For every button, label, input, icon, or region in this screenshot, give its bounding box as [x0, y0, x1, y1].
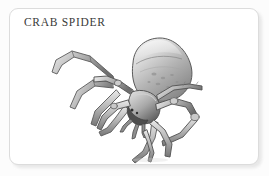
leg-joint-left-1 [114, 80, 121, 86]
spider-eye-left [131, 109, 134, 112]
leg-joint-left-2 [111, 103, 118, 109]
species-card[interactable]: CRAB SPIDER [9, 8, 259, 165]
leg-joint-right-2 [191, 113, 199, 120]
illustration-ground-shadow [132, 158, 168, 162]
illustration-container [10, 9, 259, 165]
crab-spider-illustration [50, 20, 210, 165]
leg-joint-right-1 [170, 98, 178, 105]
screenshot-root: CRAB SPIDER [0, 0, 269, 176]
spider-eye-right [136, 112, 138, 114]
